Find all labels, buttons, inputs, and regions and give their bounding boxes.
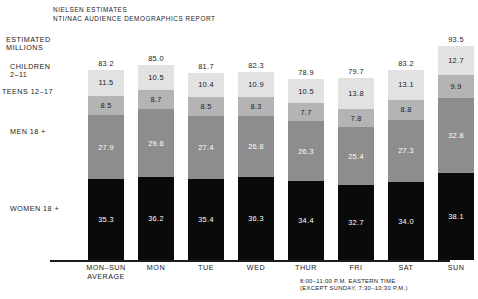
footnote-line-1: 8:00–11:00 P.M. EASTERN TIME: [300, 278, 408, 285]
bar-segment-women: 35.3: [88, 179, 124, 260]
bar-segment-women: 34.0: [388, 182, 424, 260]
bar-segment-children: 10.5: [288, 79, 324, 103]
bar-segment-men: 29.6: [138, 109, 174, 177]
bar-segment-value: 27.4: [188, 143, 224, 152]
bar-segment-teens: 8.8: [388, 100, 424, 120]
bar-segment-value: 10.5: [288, 87, 324, 96]
stacked-bar: 10.98.326.836.3: [238, 72, 274, 260]
bar-segment-women: 36.2: [138, 177, 174, 260]
bar-segment-children: 10.5: [138, 65, 174, 89]
bar-segment-value: 12.7: [438, 56, 474, 65]
axis-caption-estimated-millions: ESTIMATED MILLIONS: [6, 36, 78, 53]
bar-segment-value: 25.4: [338, 152, 374, 161]
bar-segment-children: 11.5: [88, 70, 124, 96]
bar-segment-value: 35.4: [188, 215, 224, 224]
bar-column: 79.713.87.825.432.7: [338, 28, 374, 260]
chart-footnote: 8:00–11:00 P.M. EASTERN TIME (EXCEPT SUN…: [300, 278, 408, 293]
bar-segment-women: 38.1: [438, 173, 474, 260]
stacked-bar: 13.18.827.334.0: [388, 70, 424, 260]
bar-segment-value: 26.3: [288, 147, 324, 156]
bar-segment-men: 27.9: [88, 115, 124, 179]
bar-total-label: 81.7: [188, 62, 224, 71]
bar-segment-value: 32.8: [438, 131, 474, 140]
bar-segment-value: 34.0: [388, 217, 424, 226]
stacked-bar: 13.87.825.432.7: [338, 78, 374, 260]
bar-segment-value: 10.4: [188, 80, 224, 89]
bar-column: 78.910.57.726.334.4: [288, 28, 324, 260]
footnote-line-2: (EXCEPT SUNDAY, 7:30–10:30 P.M.): [300, 285, 408, 292]
bar-segment-children: 10.4: [188, 73, 224, 97]
bar-segment-children: 10.9: [238, 72, 274, 97]
bar-column: 83.211.58.527.935.3: [88, 28, 124, 260]
bar-segment-women: 32.7: [338, 185, 374, 260]
bar-segment-value: 27.3: [388, 146, 424, 155]
bar-segment-value: 26.8: [238, 142, 274, 151]
bar-column: 81.710.48.527.435.4: [188, 28, 224, 260]
title-line-1: NIELSEN ESTIMATES: [53, 6, 215, 15]
bar-segment-children: 13.1: [388, 70, 424, 100]
bar-segment-teens: 8.5: [188, 97, 224, 116]
bar-segment-value: 8.8: [388, 105, 424, 114]
bar-segment-value: 32.7: [338, 218, 374, 227]
bar-segment-teens: 8.7: [138, 90, 174, 110]
bar-segment-value: 34.4: [288, 216, 324, 225]
stacked-bar: 10.48.527.435.4: [188, 73, 224, 260]
stacked-bar: 11.58.527.935.3: [88, 70, 124, 260]
bar-segment-value: 8.5: [88, 101, 124, 110]
bar-segment-men: 32.8: [438, 98, 474, 173]
bar-segment-value: 8.3: [238, 102, 274, 111]
row-label-children: CHILDREN 2–11: [10, 63, 78, 80]
bar-total-label: 83.2: [88, 59, 124, 68]
bar-column: 93.512.79.932.838.1: [438, 28, 474, 260]
bar-total-label: 83.2: [388, 59, 424, 68]
bar-segment-teens: 7.7: [288, 103, 324, 121]
bar-segment-men: 26.8: [238, 116, 274, 177]
stacked-bar: 10.58.729.636.2: [138, 65, 174, 260]
bar-segment-men: 27.4: [188, 116, 224, 179]
bar-segment-value: 29.6: [138, 139, 174, 148]
bar-segment-women: 36.3: [238, 177, 274, 260]
stacked-bar: 10.57.726.334.4: [288, 79, 324, 260]
row-label-teens: TEENS 12–17: [2, 88, 78, 96]
bar-segment-men: 25.4: [338, 127, 374, 185]
bar-segment-value: 13.1: [388, 80, 424, 89]
bar-segment-teens: 7.8: [338, 109, 374, 127]
bar-segment-value: 8.5: [188, 102, 224, 111]
bar-segment-men: 27.3: [388, 120, 424, 182]
bar-segment-value: 35.3: [88, 215, 124, 224]
row-label-men: MEN 18 +: [10, 128, 78, 136]
bar-segment-value: 36.3: [238, 214, 274, 223]
bar-segment-value: 27.9: [88, 143, 124, 152]
x-tick-label: SUN: [426, 264, 478, 273]
bar-segment-value: 7.7: [288, 108, 324, 117]
bar-total-label: 79.7: [338, 67, 374, 76]
bar-segment-value: 7.8: [338, 114, 374, 123]
bar-column: 83.213.18.827.334.0: [388, 28, 424, 260]
bar-column: 85.010.58.729.636.2: [138, 28, 174, 260]
bar-total-label: 82.3: [238, 61, 274, 70]
bar-total-label: 78.9: [288, 68, 324, 77]
bar-segment-teens: 8.3: [238, 97, 274, 116]
bar-segment-teens: 8.5: [88, 96, 124, 115]
title-line-2: NTI/NAC AUDIENCE DEMOGRAPHICS REPORT: [53, 15, 215, 24]
bar-segment-value: 38.1: [438, 212, 474, 221]
bar-segment-value: 13.8: [338, 89, 374, 98]
bar-segment-value: 36.2: [138, 214, 174, 223]
bar-column: 82.310.98.326.836.3: [238, 28, 274, 260]
bar-segment-teens: 9.9: [438, 75, 474, 98]
chart-title: NIELSEN ESTIMATES NTI/NAC AUDIENCE DEMOG…: [53, 6, 215, 23]
stacked-bar: 12.79.932.838.1: [438, 46, 474, 260]
bar-segment-women: 34.4: [288, 181, 324, 260]
bar-segment-value: 8.7: [138, 95, 174, 104]
bar-segment-value: 10.5: [138, 73, 174, 82]
row-label-women: WOMEN 18 +: [10, 205, 78, 213]
bar-total-label: 85.0: [138, 54, 174, 63]
bar-segment-men: 26.3: [288, 121, 324, 181]
bar-segment-value: 11.5: [88, 78, 124, 87]
bar-total-label: 93.5: [438, 35, 474, 44]
bar-segment-women: 35.4: [188, 179, 224, 260]
bar-segment-value: 10.9: [238, 80, 274, 89]
x-axis-line: [50, 260, 450, 262]
plot-area: 83.211.58.527.935.385.010.58.729.636.281…: [88, 28, 450, 260]
